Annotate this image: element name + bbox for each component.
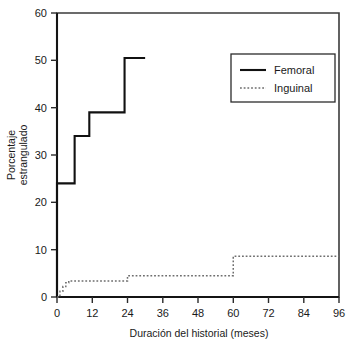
x-tick-label: 12: [86, 307, 98, 319]
legend-box: [231, 54, 335, 102]
y-axis-title-line1: Porcentaje: [5, 130, 17, 180]
y-tick-label: 30: [35, 149, 47, 161]
y-axis-tick-labels: 0 10 20 30 40 50 60: [35, 7, 47, 303]
x-tick-label: 0: [54, 307, 60, 319]
x-tick-label: 60: [227, 307, 239, 319]
x-tick-label: 24: [121, 307, 133, 319]
y-tick-label: 20: [35, 196, 47, 208]
series-line-inguinal: [57, 256, 339, 297]
figure-container: 0 10 20 30 40 50 60 0 12 24 36 48: [0, 0, 349, 344]
legend-label-inguinal: Inguinal: [274, 82, 313, 94]
y-tick-label: 50: [35, 54, 47, 66]
x-axis-title: Duración del historial (meses): [130, 327, 269, 339]
chart-canvas: 0 10 20 30 40 50 60 0 12 24 36 48: [0, 0, 349, 344]
x-tick-label: 96: [333, 307, 345, 319]
x-tick-label: 48: [192, 307, 204, 319]
x-tick-label: 36: [157, 307, 169, 319]
y-axis-title-line2: estrangulado: [17, 124, 29, 185]
x-axis-tick-labels: 0 12 24 36 48 60 72 84 96: [54, 307, 345, 319]
y-tick-label: 40: [35, 102, 47, 114]
x-tick-label: 72: [262, 307, 274, 319]
legend: Femoral Inguinal: [231, 54, 335, 102]
y-tick-label: 0: [41, 291, 47, 303]
y-tick-label: 60: [35, 7, 47, 19]
x-tick-label: 84: [298, 307, 310, 319]
legend-label-femoral: Femoral: [274, 64, 314, 76]
y-tick-label: 10: [35, 244, 47, 256]
series-line-femoral: [57, 58, 145, 297]
